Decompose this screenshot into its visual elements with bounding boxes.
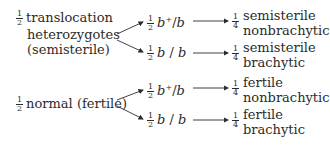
result-line: nonbrachytic xyxy=(243,23,330,38)
fraction: 1 2 xyxy=(16,10,23,27)
fraction: 1 4 xyxy=(232,80,239,97)
result-line: fertile xyxy=(243,107,305,122)
result-line: brachytic xyxy=(243,122,305,137)
result-line: nonbrachytic xyxy=(243,90,330,105)
fraction: 1 2 xyxy=(147,45,154,62)
result-fertile-nonbrachytic: 1 4 fertile nonbrachytic xyxy=(232,75,330,105)
parent-label-translocation: 1 2 translocation heterozygotes (semiste… xyxy=(16,10,120,57)
split-arrow-up-1 xyxy=(117,22,143,34)
genotype-b-plus-b-1: 1 2 b+/b xyxy=(147,12,185,32)
genotype-b-b-1: 1 2 b / b xyxy=(147,45,186,62)
fraction: 1 2 xyxy=(147,15,154,32)
fraction: 1 4 xyxy=(232,45,239,62)
label-line: heterozygotes xyxy=(27,27,120,42)
result-line: fertile xyxy=(243,75,330,90)
fraction: 1 4 xyxy=(232,112,239,129)
genotype-b-plus-b-2: 1 2 b+/b xyxy=(147,80,185,100)
genotype-b-b-2: 1 2 b / b xyxy=(147,112,186,129)
fraction: 1 2 xyxy=(147,112,154,129)
fraction: 1 4 xyxy=(232,13,239,30)
result-semisterile-nonbrachytic: 1 4 semisterile nonbrachytic xyxy=(232,8,330,38)
result-fertile-brachytic: 1 4 fertile brachytic xyxy=(232,107,305,137)
fraction: 1 2 xyxy=(16,96,23,113)
fraction: 1 2 xyxy=(147,83,154,100)
result-line: semisterile xyxy=(243,8,330,23)
result-semisterile-brachytic: 1 4 semisterile brachytic xyxy=(232,40,316,70)
label-line: (semisterile) xyxy=(27,42,120,57)
label-line: normal (fertile) xyxy=(26,96,127,111)
parent-label-normal: 1 2 normal (fertile) xyxy=(16,96,127,113)
result-line: semisterile xyxy=(243,40,316,55)
label-line: translocation xyxy=(26,10,113,25)
result-line: brachytic xyxy=(243,55,316,70)
split-arrow-down-1 xyxy=(117,40,143,52)
